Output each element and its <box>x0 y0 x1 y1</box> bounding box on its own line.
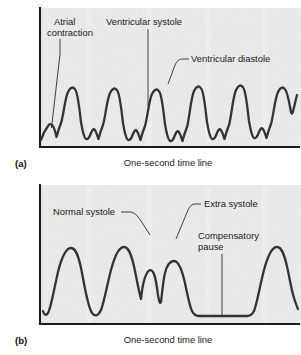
label-compensatory-pause-line1: Compensatory <box>198 230 259 241</box>
label-atrial-contraction-line2: contraction <box>47 27 93 38</box>
label-atrial-contraction-line1: Atrial <box>54 16 75 27</box>
cardiac-tracing-figure: Atrial contraction Ventricular systole V… <box>0 0 301 355</box>
panel-b: Normal systole Extra systole Compensator… <box>0 177 301 355</box>
label-ventricular-systole: Ventricular systole <box>106 16 182 27</box>
label-ventricular-diastole: Ventricular diastole <box>191 53 270 64</box>
label-extra-systole: Extra systole <box>204 198 258 209</box>
panel-letter-a: (a) <box>15 158 27 169</box>
panel-a: Atrial contraction Ventricular systole V… <box>0 0 301 178</box>
caption-a: One-second time line <box>124 157 213 168</box>
label-normal-systole: Normal systole <box>53 206 115 217</box>
panel-letter-b: (b) <box>15 335 27 346</box>
caption-b: One-second time line <box>124 334 213 345</box>
label-compensatory-pause-line2: pause <box>198 241 224 252</box>
